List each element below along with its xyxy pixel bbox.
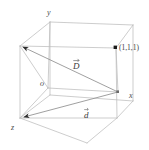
vector-D-line [23,47,118,92]
cube-edge-top-left [20,22,50,46]
cube-edge-foot-left [20,118,87,143]
point-label-111: (1,1,1) [119,44,139,52]
vector-group [23,47,118,117]
axis-label-z: z [11,124,14,132]
point-111-marker [114,46,117,49]
cube-edge-bottom-right [117,101,133,118]
vector-D-text: D [73,61,80,71]
vector-label-d: d [84,111,89,120]
vector-d-glyph: d [84,111,89,120]
cube-edge-bottom-left [20,95,50,118]
cube-edge-bottom-back [50,95,133,101]
axis-label-x: x [129,92,133,100]
cube-edge-foot-right [87,118,117,143]
cube-edges-group [20,22,133,143]
cube-edge-top-front [20,46,116,48]
vector-arrow-icon [84,107,89,111]
cube-axis-o-to-z [20,88,48,118]
vertex-x-marker [116,90,119,93]
vector-label-D: D [73,62,80,71]
origin-label-o: o [40,80,44,88]
axis-label-y: y [47,9,51,17]
cube-wireframe-svg [0,0,149,150]
cube-axis-o-to-x [48,88,118,92]
cube-edge-top-back [50,22,133,25]
vector-D-glyph: D [73,62,80,71]
vector-arrow-icon [73,58,80,62]
vector-d-text: d [84,110,89,120]
vector-cube-diagram: y (1,1,1) o x z D d [0,0,149,150]
